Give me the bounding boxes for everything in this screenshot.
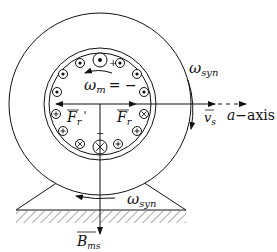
current-out-dot-icon [55,90,58,93]
conductor-top-left [76,59,85,68]
omega-syn-bottom-label: ωsyn [127,190,156,209]
current-out-dot-icon [78,61,81,64]
omega-m-label: ωm= − [84,76,137,95]
omega-syn-bottom-arrow [76,196,115,199]
current-out-dot-icon [118,61,121,64]
current-out-dot-icon [61,72,64,75]
bms-label: Bms [76,233,101,251]
current-out-dot-icon [135,72,138,75]
conductor-bottom-right-1 [114,140,123,149]
vs-label: vs [204,110,216,127]
plus-sign-top: + [109,57,117,68]
current-out-dot-icon [142,90,145,93]
minus-sign-bottom: − [96,128,104,139]
conductor-upper-left [59,70,68,79]
conductor-bottom-left-2 [59,127,68,136]
conductor-lower-left [52,110,61,119]
conductor-right [140,88,149,97]
conductor-top [93,53,107,67]
omega-syn-right-label: ωsyn [189,59,218,78]
ground-hatch [16,211,186,223]
machine-diagram: ωm= − ωsyn ωsyn Fr' Fr vs a−axis Bms + − [0,0,277,252]
conductor-lower-right [140,110,149,119]
current-out-dot-icon [98,58,102,62]
a-axis-label: a−axis [227,107,275,123]
base-left-leg [16,182,58,210]
conductor-left [53,88,62,97]
conductor-bottom-left-1 [76,140,85,149]
conductor-bottom-right-2 [133,127,142,136]
